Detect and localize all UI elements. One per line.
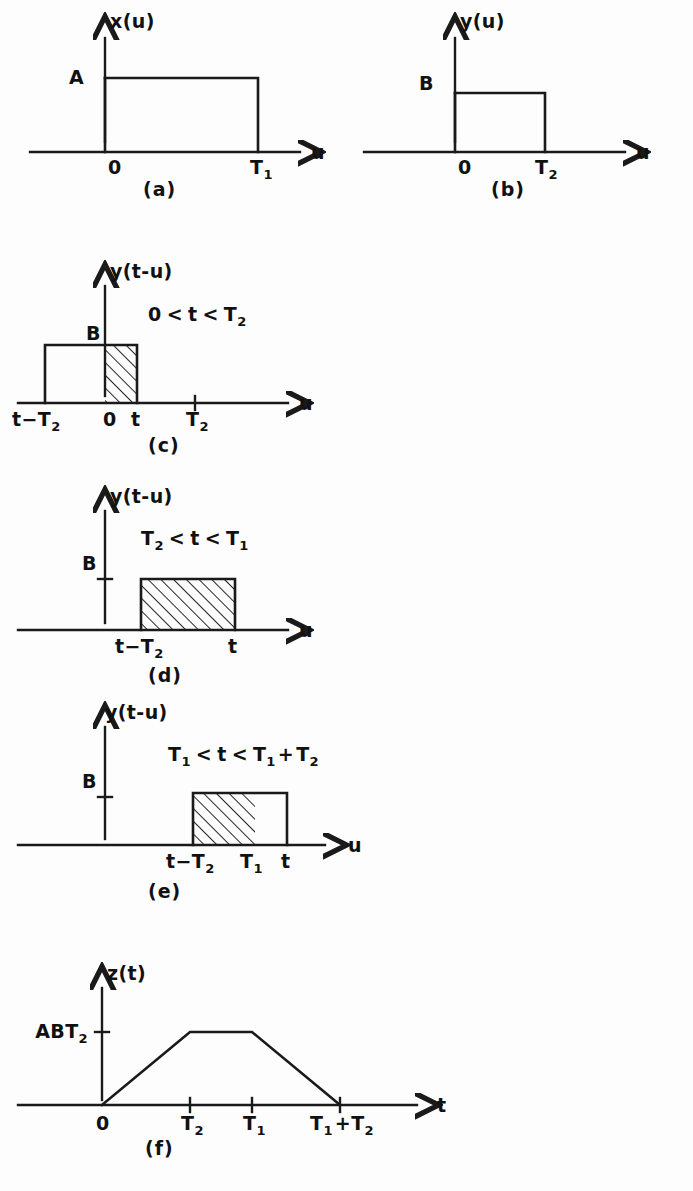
condition-d: T2<t<T1 xyxy=(141,527,249,553)
origin-label-b: 0 xyxy=(458,156,472,178)
amplitude-label-c: B xyxy=(86,322,101,344)
origin-label-a: 0 xyxy=(108,156,122,178)
amplitude-label-a: A xyxy=(69,66,84,88)
x-axis-label-c: u xyxy=(299,392,313,414)
overlap-hatch-c xyxy=(105,345,137,403)
tick-label-t1-e: T1 xyxy=(240,850,263,876)
panel-d: y(t-u) T2<t<T1 B t−T2 t u (d) xyxy=(0,483,360,693)
y-axis-label-c: y(t-u) xyxy=(110,260,173,282)
y-axis-label-f: z(t) xyxy=(107,962,146,984)
x-axis-label-a: u xyxy=(311,141,325,163)
pulse-x-a xyxy=(105,78,258,152)
trapezoid-curve-f xyxy=(102,1032,340,1105)
tick-label-t-d: t xyxy=(228,635,237,657)
amplitude-label-d: B xyxy=(82,552,97,574)
x-axis-label-e: u xyxy=(348,834,362,856)
x-axis-label-f: t xyxy=(437,1094,446,1116)
tick-label-t2-b: T2 xyxy=(535,156,558,182)
overlap-hatch-e xyxy=(193,793,255,845)
panel-label-e: (e) xyxy=(148,880,181,902)
tick-label-t-e: t xyxy=(281,850,290,872)
amplitude-label-b: B xyxy=(419,72,434,94)
tick-label-t1-f: T1 xyxy=(243,1112,266,1138)
panel-label-d: (d) xyxy=(148,664,182,686)
panel-a: x(u) A 0 T1 u (a) xyxy=(0,0,346,215)
figure-sheet: x(u) A 0 T1 u (a) y(u) B 0 T2 u (b) xyxy=(0,0,693,1191)
x-axis-label-d: u xyxy=(299,619,313,641)
condition-c: 0<t<T2 xyxy=(148,303,247,329)
y-axis-label-a: x(u) xyxy=(110,10,155,32)
panel-label-f: (f) xyxy=(145,1137,174,1159)
y-axis-label-b: y(u) xyxy=(460,10,505,32)
amplitude-label-e: B xyxy=(82,770,97,792)
tick-label-zero-c: 0 xyxy=(103,408,117,430)
tick-label-t1-a: T1 xyxy=(250,156,273,182)
overlap-hatch-d xyxy=(141,579,235,630)
panel-f: z(t) ABT2 0 T2 T1 T1+T2 t (f) xyxy=(0,940,500,1191)
condition-e: T1<t<T1+T2 xyxy=(168,743,319,769)
panel-e: y(t-u) T1<t<T1+T2 B t−T2 T1 t u (e) xyxy=(0,705,400,920)
pulse-y-b xyxy=(455,93,545,152)
tick-label-t2-c: T2 xyxy=(186,408,209,434)
tick-label-t-minus-t2-e: t−T2 xyxy=(166,850,215,876)
panel-label-c: (c) xyxy=(148,434,180,456)
tick-label-t-minus-t2-d: t−T2 xyxy=(115,635,164,661)
amplitude-label-f: ABT2 xyxy=(35,1020,88,1046)
tick-label-t-c: t xyxy=(131,408,140,430)
tick-label-zero-f: 0 xyxy=(96,1112,110,1134)
panel-label-b: (b) xyxy=(491,178,525,200)
tick-label-t-minus-t2-c: t−T2 xyxy=(12,408,61,434)
y-axis-label-e: y(t-u) xyxy=(105,701,168,723)
panel-b: y(u) B 0 T2 u (b) xyxy=(346,0,693,215)
panel-label-a: (a) xyxy=(143,178,176,200)
y-axis-label-d: y(t-u) xyxy=(110,485,173,507)
tick-label-t2-f: T2 xyxy=(181,1112,204,1138)
tick-label-t1-plus-t2-f: T1+T2 xyxy=(310,1112,374,1138)
x-axis-label-b: u xyxy=(636,141,650,163)
panel-c: y(t-u) 0<t<T2 B t−T2 0 t T2 u (c) xyxy=(0,258,360,458)
